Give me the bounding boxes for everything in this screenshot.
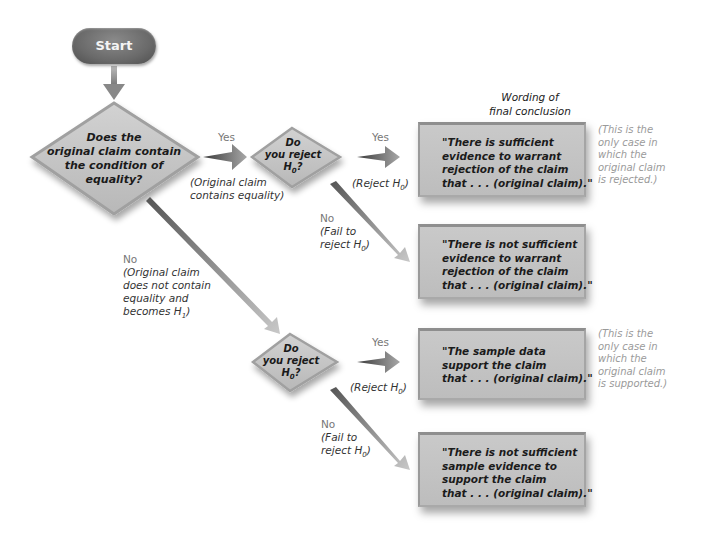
- conclusion-line: support the claim: [442, 359, 574, 373]
- no-main-note-line: does not contain: [123, 279, 211, 292]
- no-main-label: No: [123, 253, 211, 266]
- conclusion-line: evidence to warrant: [442, 252, 574, 266]
- decision-main-line: Does the: [44, 131, 184, 145]
- decision-lower-line: you reject: [250, 355, 332, 367]
- heading-line: Wording of: [470, 90, 590, 104]
- lower-no-note-line: reject H0): [321, 444, 371, 462]
- lower-no-label: No: [321, 418, 371, 431]
- conclusion-box-not-support: "There is not sufficient sample evidence…: [418, 432, 586, 507]
- side-note-line: (This is the: [598, 328, 667, 341]
- side-note-line: original claim: [598, 162, 665, 175]
- lower-no-note: No (Fail to reject H0): [321, 418, 371, 462]
- yes-main-label: Yes: [218, 131, 235, 144]
- conclusion-line: rejection of the claim: [442, 163, 574, 177]
- decision-upper-line: you reject: [252, 149, 334, 161]
- decision-upper-line: Do: [252, 137, 334, 149]
- decision-upper-text: Do you reject H0?: [252, 137, 334, 177]
- arrow-upper-yes: [357, 146, 400, 168]
- lower-yes-label: Yes: [372, 336, 389, 349]
- conclusion-line: that . . . (original claim).": [442, 487, 574, 501]
- conclusion-line: evidence to warrant: [442, 150, 574, 164]
- upper-yes-label: Yes: [372, 131, 389, 144]
- upper-no-note-line: (Fail to: [320, 225, 370, 238]
- side-note-line: original claim: [598, 366, 667, 379]
- upper-no-label: No: [320, 212, 370, 225]
- decision-lower-line: H0?: [250, 367, 332, 383]
- upper-no-note-line: reject H0): [320, 238, 370, 256]
- decision-main-line: original claim contain: [44, 145, 184, 159]
- yes-main-note-line: contains equality): [190, 189, 284, 202]
- decision-main-line: the condition of: [44, 159, 184, 173]
- decision-main-line: equality?: [44, 173, 184, 187]
- decision-main-text: Does the original claim contain the cond…: [44, 131, 184, 187]
- lower-no-note-line: (Fail to: [321, 431, 371, 444]
- side-note-line: only case in: [598, 137, 665, 150]
- conclusion-box-support: "The sample data support the claim that …: [418, 328, 586, 400]
- no-main-note-line: equality and: [123, 292, 211, 305]
- conclusion-line: that . . . (original claim).": [442, 372, 574, 386]
- no-main-note-line: (Original claim: [123, 266, 211, 279]
- side-note-line: (This is the: [598, 124, 665, 137]
- start-terminator: Start: [72, 28, 156, 64]
- conclusion-line: rejection of the claim: [442, 265, 574, 279]
- conclusion-line: sample evidence to: [442, 460, 574, 474]
- conclusion-box-reject: "There is sufficient evidence to warrant…: [418, 122, 586, 197]
- lower-yes-note: (Reject H0): [350, 381, 407, 399]
- arrow-start-to-decision: [103, 66, 125, 100]
- no-main-note-line: becomes H1): [123, 305, 211, 323]
- decision-lower-line: Do: [250, 343, 332, 355]
- conclusion-line: that . . . (original claim).": [442, 279, 574, 293]
- conclusion-line: "The sample data: [442, 345, 574, 359]
- conclusion-line: "There is not sufficient: [442, 238, 574, 252]
- decision-lower-text: Do you reject H0?: [250, 343, 332, 383]
- side-note-line: which the: [598, 353, 667, 366]
- arrow-yes-main: [203, 144, 247, 170]
- side-note-rejected: (This is the only case in which the orig…: [598, 124, 665, 187]
- conclusion-box-fail-reject: "There is not sufficient evidence to war…: [418, 224, 586, 299]
- arrow-lower-yes: [357, 351, 400, 373]
- upper-no-note: No (Fail to reject H0): [320, 212, 370, 256]
- decision-upper-line: H0?: [252, 161, 334, 177]
- conclusion-line: "There is sufficient: [442, 136, 574, 150]
- side-note-line: is rejected.): [598, 174, 665, 187]
- side-note-line: which the: [598, 149, 665, 162]
- conclusion-line: that . . . (original claim).": [442, 177, 574, 191]
- yes-main-note: (Original claim contains equality): [190, 176, 284, 202]
- conclusion-line: support the claim: [442, 473, 574, 487]
- side-note-supported: (This is the only case in which the orig…: [598, 328, 667, 391]
- conclusion-heading: Wording of final conclusion: [470, 90, 590, 118]
- heading-line: final conclusion: [470, 104, 590, 118]
- no-main-note: No (Original claim does not contain equa…: [123, 253, 211, 323]
- side-note-line: only case in: [598, 341, 667, 354]
- yes-main-note-line: (Original claim: [190, 176, 284, 189]
- upper-yes-note: (Reject H0): [352, 177, 409, 195]
- side-note-line: is supported.): [598, 378, 667, 391]
- conclusion-line: "There is not sufficient: [442, 446, 574, 460]
